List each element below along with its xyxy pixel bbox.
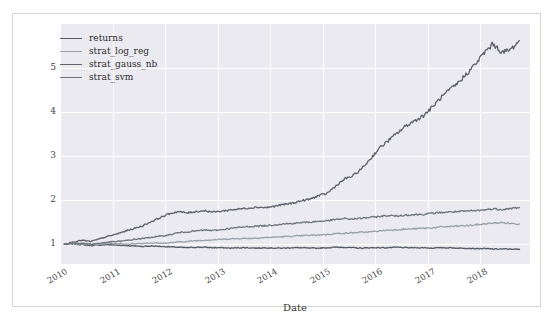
line-series-returns [64, 243, 519, 249]
x-tick-label: 2014 [248, 266, 279, 290]
legend-item-strat_log_reg: strat_log_reg [57, 45, 187, 58]
y-tick-label: 5 [22, 63, 56, 72]
x-axis-ticks: 201020112012201320142015201620172018 [60, 266, 530, 300]
x-tick-label: 2016 [353, 266, 384, 290]
x-tick-label: 2012 [143, 266, 174, 290]
legend: returnsstrat_log_regstrat_gauss_nbstrat_… [57, 30, 187, 86]
y-tick-label: 2 [22, 195, 56, 204]
legend-item-label: strat_svm [89, 73, 133, 82]
x-tick-label: 2018 [458, 266, 489, 290]
y-axis-ticks: 12345 [13, 14, 56, 274]
x-axis-label: Date [60, 302, 530, 313]
legend-swatch-icon [60, 64, 82, 65]
legend-swatch-icon [60, 77, 82, 78]
legend-item-strat_gauss_nb: strat_gauss_nb [57, 58, 187, 71]
x-tick-label: 2013 [196, 266, 227, 290]
legend-item-label: returns [89, 34, 123, 43]
y-tick-label: 4 [22, 107, 56, 116]
y-tick-label: 3 [22, 151, 56, 160]
figure-panel: 12345 2010201120122013201420152016201720… [12, 13, 541, 307]
legend-swatch-icon [60, 38, 82, 39]
legend-item-strat_svm: strat_svm [57, 71, 187, 84]
x-tick-label: 2017 [406, 266, 437, 290]
legend-swatch-icon [60, 51, 82, 52]
x-tick-label: 2015 [301, 266, 332, 290]
legend-item-label: strat_log_reg [89, 47, 149, 56]
x-tick-label: 2011 [91, 266, 122, 290]
legend-item-label: strat_gauss_nb [89, 60, 157, 69]
y-tick-label: 1 [22, 239, 56, 248]
legend-item-returns: returns [57, 32, 187, 45]
line-series-strat_log_reg [64, 222, 519, 245]
